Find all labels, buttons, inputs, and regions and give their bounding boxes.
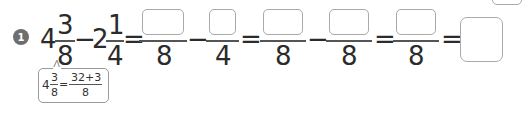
offscreen-box bbox=[492, 0, 522, 5]
problem-number-badge: 1 bbox=[13, 29, 29, 45]
hint-tail-mask bbox=[53, 67, 61, 70]
step2-denominator-b: 8 bbox=[341, 43, 358, 69]
minus-sign-2: − bbox=[187, 26, 209, 52]
hint-result-fraction-bar bbox=[69, 84, 102, 85]
hint-numerator: 3 bbox=[51, 72, 58, 83]
step2-denominator-a: 8 bbox=[275, 43, 292, 69]
step1-denominator-a: 8 bbox=[156, 43, 173, 69]
hint-result-denominator: 8 bbox=[82, 87, 89, 98]
step1-numerator-input-a[interactable] bbox=[142, 9, 184, 35]
answer-input[interactable] bbox=[460, 17, 503, 62]
term2-denominator: 4 bbox=[107, 43, 124, 69]
equals-sign-2: = bbox=[240, 26, 262, 52]
step3-denominator: 8 bbox=[408, 43, 425, 69]
hint-equals: = bbox=[59, 79, 68, 90]
hint-fraction-bar bbox=[50, 84, 58, 85]
minus-sign-3: − bbox=[307, 26, 329, 52]
hint-result-numerator: 32+3 bbox=[71, 72, 101, 83]
step3-numerator-input[interactable] bbox=[396, 9, 436, 35]
term1-numerator: 3 bbox=[57, 12, 74, 38]
step2-numerator-input-b[interactable] bbox=[329, 9, 369, 35]
step2-numerator-input-a[interactable] bbox=[263, 9, 303, 35]
hint-whole: 4 bbox=[42, 80, 50, 91]
equals-sign-3: = bbox=[374, 26, 396, 52]
step1-denominator-b: 4 bbox=[215, 43, 232, 69]
hint-denominator: 8 bbox=[51, 87, 58, 98]
term1-whole: 4 bbox=[40, 26, 57, 52]
step1-numerator-input-b[interactable] bbox=[209, 9, 236, 35]
